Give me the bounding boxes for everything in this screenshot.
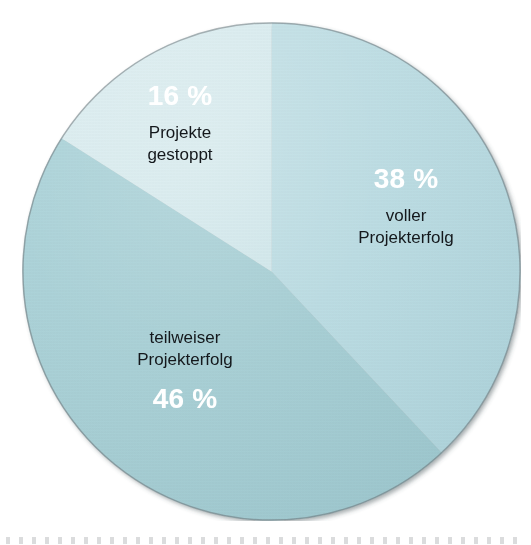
cropped-caption-artifact: [0, 533, 531, 545]
pie-slices-group: [23, 23, 521, 521]
pie-chart-figure: 16 % Projekte gestoppt 38 % voller Proje…: [0, 0, 531, 545]
caption-artifact-strip: [6, 537, 525, 544]
pie-chart-graphic: [22, 22, 521, 521]
pie-svg: [22, 22, 521, 521]
